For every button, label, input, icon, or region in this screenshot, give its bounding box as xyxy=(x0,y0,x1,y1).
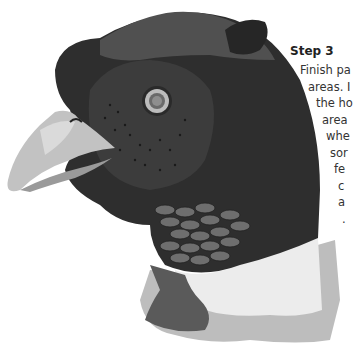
step-line: area xyxy=(322,112,357,129)
step-instructions: Finish pa areas. I the ho area whe sor f… xyxy=(300,62,357,227)
step-line: whe xyxy=(326,128,357,145)
step-line: areas. I xyxy=(308,79,357,96)
eye xyxy=(142,86,172,116)
step-line: . xyxy=(342,211,357,228)
step-line: Finish pa xyxy=(300,62,357,79)
step-line: a xyxy=(338,194,357,211)
step-line: c xyxy=(338,178,357,195)
step-line: sor xyxy=(330,145,357,162)
step-line: the ho xyxy=(316,95,357,112)
step-line: fe xyxy=(334,161,357,178)
step-title: Step 3 xyxy=(290,44,334,58)
